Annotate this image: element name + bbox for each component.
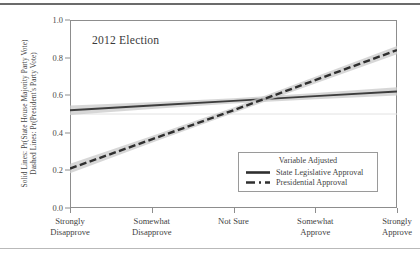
legend-item-state-legislative-approval: State Legislative Approval xyxy=(239,167,377,177)
y-axis-tick-mark xyxy=(65,132,70,133)
page-rule-top xyxy=(0,3,420,5)
legend-item-label: Presidential Approval xyxy=(276,178,347,187)
y-axis-label: Solid Lines: Pr(State House Majority Par… xyxy=(20,8,39,218)
page-rule-bottom xyxy=(0,248,420,249)
x-axis-tick-mark xyxy=(152,208,153,213)
x-axis-tick-label: StronglyApprove xyxy=(354,216,420,238)
x-axis-tick-label-line: Disapprove xyxy=(109,227,195,238)
x-axis-tick-label: SomewhatDisapprove xyxy=(109,216,195,238)
x-axis-tick-label-line: Approve xyxy=(354,227,420,238)
x-axis-tick-mark xyxy=(315,208,316,213)
x-axis-tick-label-line: Somewhat xyxy=(109,216,195,227)
y-axis-label-line-2: Dashed Lines: Pr(President's Party Vote) xyxy=(29,8,38,218)
x-axis-tick-label-line: Strongly xyxy=(354,216,420,227)
x-axis-tick-label: Not Sure xyxy=(191,216,277,227)
x-axis-tick-label: StronglyDisapprove xyxy=(27,216,113,238)
legend-item-label: State Legislative Approval xyxy=(276,168,363,177)
x-axis-tick-mark xyxy=(70,208,71,213)
legend-title: Variable Adjusted xyxy=(239,156,377,165)
x-axis-tick-mark xyxy=(234,208,235,213)
x-axis-tick-label-line: Disapprove xyxy=(27,227,113,238)
y-axis-label-line-1: Solid Lines: Pr(State House Majority Par… xyxy=(20,8,29,218)
chart-title: 2012 Election xyxy=(92,34,159,47)
y-axis-tick-mark xyxy=(65,95,70,96)
plot-area: 2012 Election 0.00.20.40.60.81.0 Strongl… xyxy=(70,20,397,208)
x-axis-tick-label-line: Somewhat xyxy=(272,216,358,227)
x-axis-tick-label-line: Approve xyxy=(272,227,358,238)
y-axis-tick-mark xyxy=(65,20,70,21)
chart-legend: Variable Adjusted State Legislative Appr… xyxy=(238,152,378,192)
x-axis-tick-label-line: Not Sure xyxy=(191,216,277,227)
x-axis-tick-label: SomewhatApprove xyxy=(272,216,358,238)
x-axis-tick-mark xyxy=(397,208,398,213)
legend-item-presidential-approval: Presidential Approval xyxy=(239,177,377,187)
dashed-line-swatch-icon xyxy=(245,178,271,187)
figure-container: Solid Lines: Pr(State House Majority Par… xyxy=(0,6,420,246)
y-axis-tick-mark xyxy=(65,170,70,171)
solid-line-swatch-icon xyxy=(245,168,271,177)
y-axis-tick-mark xyxy=(65,57,70,58)
x-axis-tick-label-line: Strongly xyxy=(27,216,113,227)
